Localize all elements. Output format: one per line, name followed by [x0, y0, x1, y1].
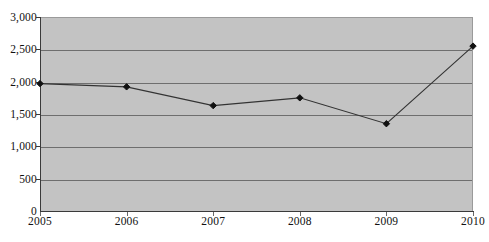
y-tick-mark-3000: [36, 17, 40, 18]
line-chart: 3,000 2,500 2,000 1,500 1,000 500 0 2005…: [0, 0, 489, 242]
y-tick-label-2500: 2,500: [1, 44, 37, 56]
y-tick-mark-1000: [36, 146, 40, 147]
x-tick-label-2010: 2010: [438, 216, 489, 228]
gridline-2500: [40, 50, 472, 51]
y-tick-label-1500: 1,500: [1, 109, 37, 121]
y-axis-labels: 3,000 2,500 2,000 1,500 1,000 500 0: [0, 0, 37, 242]
y-tick-mark-2500: [36, 49, 40, 50]
y-tick-mark-500: [36, 179, 40, 180]
y-tick-label-3000: 3,000: [1, 12, 37, 24]
x-tick-label-2009: 2009: [351, 216, 421, 228]
gridline-500: [40, 180, 472, 181]
y-axis-line: [40, 17, 41, 212]
x-tick-label-2007: 2007: [178, 216, 248, 228]
x-tick-label-2008: 2008: [265, 216, 335, 228]
gridline-1000: [40, 147, 472, 148]
y-tick-mark-1500: [36, 114, 40, 115]
gridline-2000: [40, 83, 472, 84]
y-tick-label-2000: 2,000: [1, 77, 37, 89]
y-tick-mark-2000: [36, 82, 40, 83]
plot-area: [40, 17, 473, 211]
x-tick-label-2005: 2005: [5, 216, 75, 228]
x-axis-line: [40, 211, 474, 212]
y-tick-label-500: 500: [1, 174, 37, 186]
y-tick-label-1000: 1,000: [1, 141, 37, 153]
gridline-1500: [40, 115, 472, 116]
x-tick-label-2006: 2006: [92, 216, 162, 228]
